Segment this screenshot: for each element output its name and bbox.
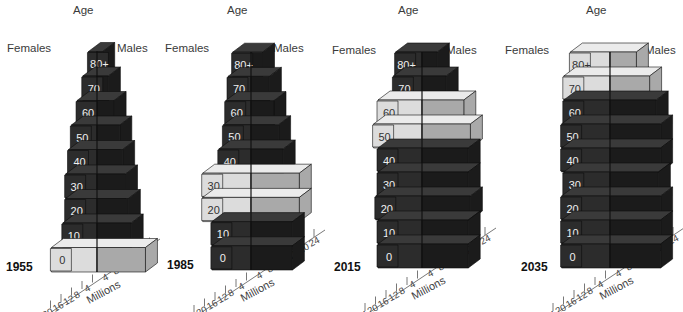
age-blocks: 80+706050403020100: [50, 43, 157, 273]
block-top: [562, 139, 673, 148]
block-top: [203, 164, 312, 173]
age-group-label: 20: [208, 204, 220, 216]
millions-axis-label: Millions: [597, 274, 635, 302]
male-front: [610, 244, 661, 268]
age-group-label: 0: [386, 251, 392, 263]
block-top: [203, 188, 312, 197]
millions-axis-label: Millions: [84, 278, 122, 306]
millions-axis-label: Millions: [238, 276, 276, 304]
block-top: [564, 163, 671, 172]
block-top: [562, 211, 673, 220]
block-top: [212, 213, 305, 222]
pyramid-2035: Age Females Males 2035 24201612844812162…: [500, 0, 683, 312]
block-top: [564, 67, 662, 76]
pyramid-blocks: 24201612844812162024Millions80+706050403…: [330, 0, 500, 312]
pyramid-blocks: 24201612844812162024Millions80+706050403…: [500, 0, 683, 312]
age-block-0: 0: [50, 239, 157, 273]
pyramid-2015: Age Females Males 2015 24201612844812162…: [330, 0, 500, 312]
pyramid-blocks: 2016128448121620Millions80+7060504030201…: [0, 0, 170, 312]
block-top: [212, 237, 305, 246]
block-top: [376, 187, 483, 196]
age-group-label: 0: [220, 252, 226, 264]
age-block-0: 0: [211, 237, 305, 270]
block-top: [66, 165, 138, 174]
block-top: [63, 214, 143, 223]
block-top: [374, 115, 483, 124]
age-blocks: 80+706050403020100: [202, 43, 312, 270]
block-top: [378, 163, 480, 172]
male-front: [422, 244, 468, 268]
block-top: [378, 139, 480, 148]
age-block-0: 0: [377, 235, 480, 268]
block-top: [66, 190, 141, 199]
male-front: [251, 246, 292, 270]
pyramid-1955: Age Females Males 1955 2016128448121620M…: [0, 0, 170, 312]
male-front: [97, 248, 145, 273]
block-top: [564, 91, 668, 100]
block-top: [562, 115, 673, 124]
pyramid-blocks: 24201612844812162024Millions80+706050403…: [165, 0, 335, 312]
age-group-label: 0: [59, 254, 65, 266]
millions-axis-label: Millions: [409, 274, 447, 302]
block-top: [378, 91, 476, 100]
pyramid-1985: Age Females Males 1985 24201612844812162…: [165, 0, 335, 312]
block-top: [570, 43, 648, 52]
block-top: [562, 235, 673, 244]
block-top: [51, 239, 157, 248]
age-blocks: 80+706050403020100: [561, 43, 673, 268]
age-block-0: 0: [561, 235, 673, 268]
block-top: [219, 140, 295, 149]
block-top: [378, 211, 480, 220]
axis-tick-label: 24: [307, 234, 322, 249]
age-blocks: 80+706050403020100: [373, 43, 483, 268]
block-top: [562, 187, 673, 196]
age-group-label: 0: [570, 251, 576, 263]
block-top: [378, 235, 480, 244]
